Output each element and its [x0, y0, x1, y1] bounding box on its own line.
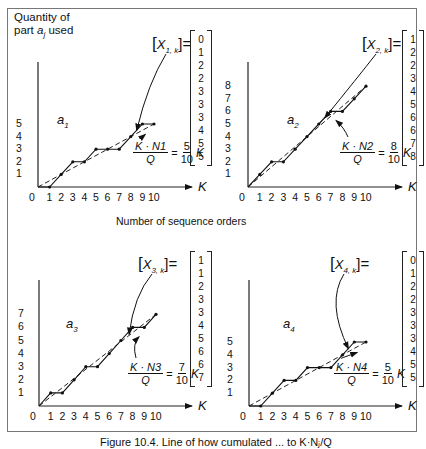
x-tick-label: 6 — [105, 191, 111, 203]
x-tick-label: 2 — [269, 191, 275, 203]
vector-value: 7 — [196, 371, 206, 384]
x-tick-label: 6 — [316, 191, 322, 203]
y-tick-label: 5 — [16, 117, 22, 129]
vector-value: 3 — [408, 319, 418, 332]
rate-formula: K · N4Q=510K — [334, 361, 405, 386]
y-tick-label: 1 — [227, 386, 233, 398]
vector-value: 8 — [408, 150, 418, 163]
vector-value: 2 — [196, 59, 206, 72]
y-tick-label: 2 — [225, 155, 231, 167]
x-axis-variable-label: K — [198, 179, 207, 194]
data-point — [341, 110, 344, 113]
x-tick-label: 3 — [70, 191, 76, 203]
vector-value: 6 — [408, 124, 418, 137]
data-point — [154, 313, 157, 316]
y-tick-label: 6 — [225, 104, 231, 116]
x-tick-label: 5 — [95, 410, 101, 422]
x-tick-label: 9 — [351, 410, 357, 422]
x-tick-label: 10 — [360, 410, 372, 422]
x-tick-label: 3 — [71, 410, 77, 422]
data-point — [329, 366, 332, 369]
pointer-arrow-actual — [325, 54, 376, 118]
chart-panel-a3 — [39, 274, 192, 406]
y-tick-label: 4 — [227, 348, 233, 360]
data-point — [84, 365, 87, 368]
x-tick-label: 10 — [148, 191, 160, 203]
vector-value: 3 — [196, 293, 206, 306]
vector-bracket-left — [402, 30, 407, 166]
vector-value: 4 — [408, 85, 418, 98]
data-point — [259, 404, 262, 407]
x-tick-label: 1 — [47, 191, 53, 203]
vector-value: 5 — [408, 358, 418, 371]
y-tick-label: 3 — [18, 360, 24, 372]
x-tick-label: 9 — [141, 410, 147, 422]
data-point — [96, 365, 99, 368]
pointer-arrow-actual — [129, 274, 152, 335]
y-tick-label: 2 — [16, 155, 22, 167]
data-point — [271, 392, 274, 395]
data-point — [73, 378, 76, 381]
data-point — [353, 97, 356, 100]
data-point — [294, 148, 297, 151]
vector-value: 3 — [408, 306, 418, 319]
data-point — [94, 148, 97, 151]
x-tick-label: 2 — [269, 410, 275, 422]
y-tick-label: 1 — [225, 167, 231, 179]
x-tick-label: 5 — [93, 191, 99, 203]
vector-label: [X3, k]= — [138, 256, 177, 278]
x-tick-label: 8 — [130, 410, 136, 422]
vector-value: 6 — [196, 345, 206, 358]
vector-bracket-right — [419, 30, 424, 166]
vector-value: 2 — [196, 280, 206, 293]
y-tick-label: 8 — [225, 79, 231, 91]
y-tick-label: 2 — [18, 373, 24, 385]
vector-value: 0 — [196, 33, 206, 46]
vector-bracket-right — [207, 30, 212, 166]
value-vector: 0122333455 — [196, 33, 206, 163]
x-tick-label: 4 — [293, 410, 299, 422]
chart-panel-a2 — [248, 54, 402, 187]
vector-value: 5 — [196, 332, 206, 345]
data-point — [106, 148, 109, 151]
vector-value: 3 — [196, 98, 206, 111]
vector-bracket-left — [190, 30, 195, 166]
y-tick-label: 3 — [225, 142, 231, 154]
x-tick-label: 1 — [48, 410, 54, 422]
vector-value: 5 — [196, 150, 206, 163]
vector-value: 6 — [408, 111, 418, 124]
x-tick-label: 10 — [360, 191, 372, 203]
x-tick-label: 4 — [81, 191, 87, 203]
x-axis-variable-label: K — [198, 398, 207, 413]
y-tick-label: 2 — [227, 373, 233, 385]
x-tick-label: 5 — [304, 191, 310, 203]
x-tick-label: 6 — [316, 410, 322, 422]
data-point — [341, 353, 344, 356]
vector-value: 1 — [408, 33, 418, 46]
panel-label: a4 — [283, 316, 295, 334]
rate-formula: K · N2Q=810K — [340, 140, 411, 165]
x-tick-label: 0 — [239, 191, 245, 203]
x-tick-label: 7 — [116, 191, 122, 203]
data-point — [294, 379, 297, 382]
x-tick-label: 8 — [340, 410, 346, 422]
data-point — [317, 122, 320, 125]
vector-value: 1 — [196, 46, 206, 59]
vector-value: 6 — [196, 358, 206, 371]
x-tick-label: 9 — [139, 191, 145, 203]
x-tick-label: 7 — [118, 410, 124, 422]
x-tick-label: 7 — [328, 191, 334, 203]
vector-value: 3 — [408, 332, 418, 345]
vector-value: 0 — [408, 254, 418, 267]
vector-value: 3 — [408, 72, 418, 85]
value-vector: 0122333455 — [408, 254, 418, 384]
x-tick-label: 5 — [305, 410, 311, 422]
x-tick-label: 0 — [29, 191, 35, 203]
x-tick-label: 4 — [83, 410, 89, 422]
x-tick-label: 0 — [240, 410, 246, 422]
vector-value: 4 — [196, 319, 206, 332]
data-point — [364, 85, 367, 88]
pointer-arrow-actual — [137, 54, 166, 131]
data-point — [83, 160, 86, 163]
y-tick-label: 5 — [225, 117, 231, 129]
